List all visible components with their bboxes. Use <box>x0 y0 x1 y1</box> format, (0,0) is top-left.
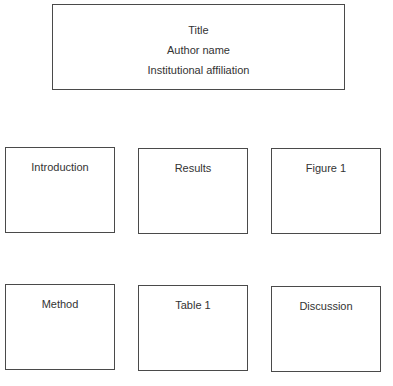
section-label: Results <box>139 162 247 174</box>
header-box: Title Author name Institutional affiliat… <box>52 4 345 90</box>
section-box-table-1: Table 1 <box>138 285 248 371</box>
section-label: Table 1 <box>139 299 247 311</box>
section-label: Figure 1 <box>272 162 380 174</box>
section-label: Method <box>6 298 114 310</box>
section-box-results: Results <box>138 148 248 234</box>
section-label: Discussion <box>272 300 380 312</box>
section-label: Introduction <box>6 161 114 173</box>
author-name: Author name <box>167 40 230 60</box>
section-box-discussion: Discussion <box>271 286 381 372</box>
section-box-method: Method <box>5 284 115 370</box>
section-box-introduction: Introduction <box>5 147 115 233</box>
section-box-figure-1: Figure 1 <box>271 148 381 234</box>
institutional-affiliation: Institutional affiliation <box>148 60 250 80</box>
poster-title: Title <box>188 20 208 40</box>
